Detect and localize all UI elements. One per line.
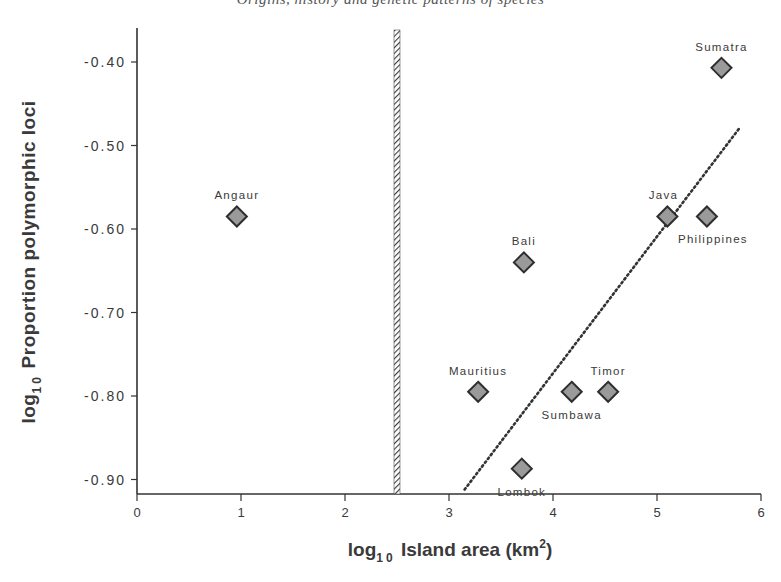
point-label: Lombok: [497, 486, 546, 498]
data-point-java: Java: [649, 189, 679, 226]
x-tick-label: 6: [757, 505, 764, 520]
x-tick-label: 1: [237, 505, 244, 520]
diamond-marker-icon: [512, 459, 532, 479]
y-tick-label: -0.40: [84, 54, 126, 70]
diamond-marker-icon: [562, 382, 582, 402]
point-label: Sumatra: [695, 41, 748, 53]
diamond-marker-icon: [598, 382, 618, 402]
diamond-marker-icon: [227, 206, 247, 226]
point-label: Philippines: [678, 233, 748, 245]
point-label: Mauritius: [449, 365, 507, 377]
y-tick-label: -0.50: [84, 138, 126, 154]
data-point-philippines: Philippines: [678, 206, 748, 245]
x-tick-label: 4: [549, 505, 556, 520]
data-point-mauritius: Mauritius: [449, 365, 507, 402]
x-tick-label: 0: [133, 505, 140, 520]
y-tick-label: -0.60: [84, 221, 126, 237]
y-tick-label: -0.70: [84, 305, 126, 321]
x-axis-title: log10 Island area (km2): [348, 537, 553, 565]
annotations: [394, 30, 740, 494]
data-point-lombok: Lombok: [497, 459, 546, 498]
axes: 0123456-0.40-0.50-0.60-0.70-0.80-0.90: [84, 28, 765, 520]
data-point-angaur: Angaur: [214, 189, 259, 226]
point-label: Angaur: [214, 189, 259, 201]
x-tick-label: 3: [445, 505, 452, 520]
point-label: Java: [649, 189, 679, 201]
point-label: Sumbawa: [542, 409, 602, 421]
y-axis-title: log10 Proportion polymorphic loci: [18, 100, 44, 423]
data-point-timor: Timor: [590, 365, 625, 402]
y-tick-label: -0.80: [84, 388, 126, 404]
diamond-marker-icon: [657, 206, 677, 226]
axis-labels: log10 Island area (km2)log10 Proportion …: [18, 100, 552, 565]
point-label: Timor: [590, 365, 625, 377]
diamond-marker-icon: [697, 206, 717, 226]
diamond-marker-icon: [711, 58, 731, 78]
hatched-threshold-bar: [394, 30, 400, 494]
regression-line: [465, 127, 741, 489]
diamond-marker-icon: [468, 382, 488, 402]
chart-canvas: 0123456-0.40-0.50-0.60-0.70-0.80-0.90 An…: [0, 0, 781, 582]
scatter-chart: 0123456-0.40-0.50-0.60-0.70-0.80-0.90 An…: [0, 0, 781, 582]
point-label: Bali: [512, 235, 536, 247]
diamond-marker-icon: [514, 252, 534, 272]
data-point-sumatra: Sumatra: [695, 41, 748, 78]
data-points: AngaurBaliSumatraJavaPhilippinesMauritiu…: [214, 41, 747, 498]
x-tick-label: 2: [341, 505, 348, 520]
y-tick-label: -0.90: [84, 472, 126, 488]
data-point-sumbawa: Sumbawa: [542, 382, 602, 421]
x-tick-label: 5: [653, 505, 660, 520]
data-point-bali: Bali: [512, 235, 536, 272]
